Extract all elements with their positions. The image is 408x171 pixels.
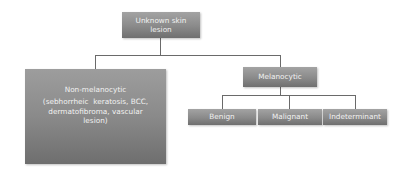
node-label: Benign: [209, 112, 234, 121]
connector-to-non-melanocytic: [95, 55, 96, 69]
connector-to-indeterminant: [355, 95, 356, 109]
node-benign: Benign: [188, 109, 256, 125]
node-title: Non-melanocytic: [65, 85, 127, 94]
node-label: Indeterminant: [329, 112, 381, 121]
node-label: Malignant: [272, 112, 308, 121]
node-malignant: Malignant: [258, 109, 322, 125]
node-label-line1: Unknown skin: [136, 16, 187, 25]
node-detail-line3: lesion): [83, 116, 107, 125]
node-melanocytic: Melanocytic: [243, 67, 317, 87]
connector-to-melanocytic: [280, 55, 281, 67]
connector-level1-horizontal: [95, 55, 281, 56]
node-title: Melanocytic: [258, 72, 302, 81]
node-unknown-skin-lesion: Unknown skin lesion: [122, 12, 200, 38]
connector-melanocytic-down: [280, 87, 281, 95]
node-label-line2: lesion: [150, 25, 171, 34]
node-non-melanocytic: Non-melanocytic (sebhorrheic keratosis, …: [25, 69, 166, 164]
connector-to-benign: [222, 95, 223, 109]
node-indeterminant: Indeterminant: [323, 109, 387, 125]
connector-root-down: [160, 38, 161, 55]
node-detail-line2: dermatofibroma, vascular: [48, 107, 142, 116]
connector-to-malignant: [289, 95, 290, 109]
node-detail-line1: (sebhorrheic keratosis, BCC,: [43, 97, 148, 106]
